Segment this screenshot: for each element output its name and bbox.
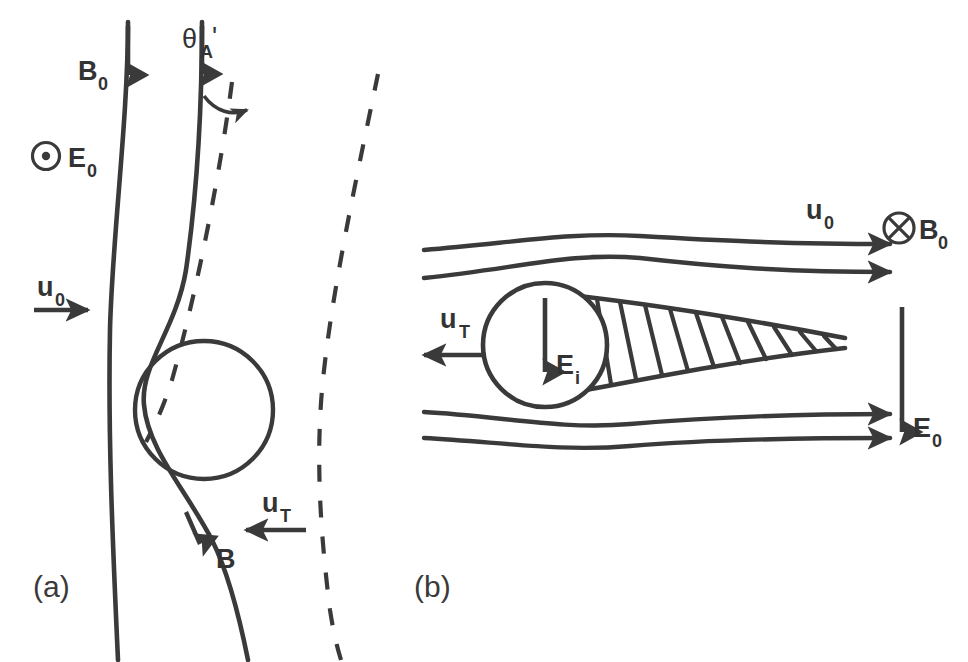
- panel-a-ut-subscript: T: [280, 506, 291, 526]
- panel-a-dashed-line-outer: [319, 74, 378, 660]
- diagram-canvas: θ A ' B 0 E 0 u 0 u T B (a): [0, 0, 968, 662]
- panel-b-streamline-top-1: [424, 235, 890, 250]
- wake-hatch-lines: [575, 296, 836, 388]
- panel-a-field-line-left: [109, 22, 128, 660]
- curved-arrow-icon: [204, 96, 247, 113]
- panel-b-b0-subscript: 0: [938, 233, 948, 253]
- panel-b-group: E i u T u 0 B 0 E 0 (b): [414, 195, 948, 603]
- panel-b-streamline-bottom-1: [424, 412, 890, 425]
- panel-a-obstacle-circle: [135, 341, 273, 479]
- panel-b-ut-subscript: T: [459, 322, 470, 342]
- panel-b-wake-region: [570, 295, 845, 392]
- panel-a-e0-label: E: [68, 143, 86, 173]
- panel-b-e0-label: E: [913, 413, 931, 443]
- panel-a-b-label: B: [216, 544, 236, 574]
- panel-b-u0-label: u: [806, 195, 823, 225]
- panel-a-b0-label: B: [78, 56, 98, 86]
- theta-a-label: θ: [182, 24, 197, 54]
- panel-b-id: (b): [414, 570, 451, 603]
- wake-upper-boundary: [570, 295, 845, 338]
- panel-a-u0-subscript: 0: [55, 290, 65, 310]
- panel-a-e0-subscript: 0: [87, 161, 97, 181]
- theta-a-prime: ': [212, 22, 217, 52]
- panel-b-streamline-top-2: [424, 257, 890, 278]
- panel-b-e0-subscript: 0: [932, 431, 942, 451]
- panel-b-ei-label: E: [556, 350, 574, 380]
- circle-cross-icon: [884, 213, 914, 243]
- panel-a-u0-label: u: [37, 272, 54, 302]
- panel-b-b0-label: B: [919, 215, 939, 245]
- panel-b-streamline-bottom-2: [424, 438, 890, 448]
- panel-a-ut-label: u: [262, 488, 279, 518]
- panel-a-id: (a): [33, 570, 70, 603]
- panel-a-group: θ A ' B 0 E 0 u 0 u T B (a): [33, 22, 379, 660]
- panel-b-u0-subscript: 0: [824, 213, 834, 233]
- circle-dot-icon: [33, 143, 60, 170]
- figure-container: θ A ' B 0 E 0 u 0 u T B (a): [0, 0, 968, 662]
- panel-b-ei-subscript: i: [575, 368, 580, 388]
- panel-b-ut-label: u: [440, 304, 457, 334]
- panel-a-b0-subscript: 0: [98, 74, 108, 94]
